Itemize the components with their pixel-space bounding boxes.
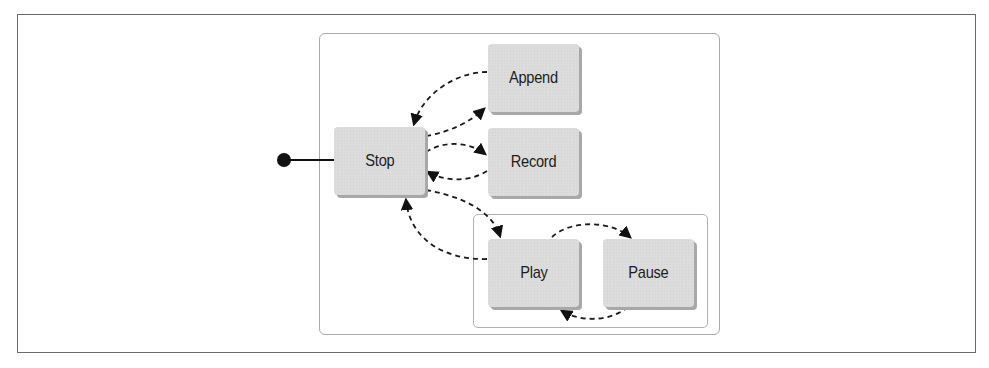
- state-play: Play: [488, 239, 579, 307]
- state-label: Stop: [365, 151, 394, 171]
- state-record: Record: [488, 128, 579, 196]
- state-label: Record: [511, 152, 557, 172]
- state-append: Append: [488, 44, 579, 112]
- initial-transition-line: [290, 159, 334, 161]
- state-label: Pause: [628, 263, 668, 283]
- state-label: Append: [509, 68, 558, 88]
- state-pause: Pause: [603, 239, 694, 307]
- state-stop: Stop: [334, 127, 425, 195]
- initial-state-marker: [277, 153, 291, 167]
- state-label: Play: [520, 263, 547, 283]
